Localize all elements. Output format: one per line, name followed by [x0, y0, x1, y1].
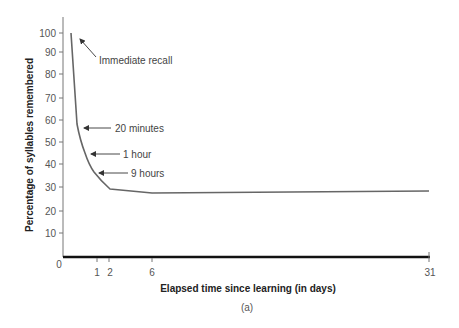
x-tick-label: 2: [107, 267, 113, 278]
annotation-20-minutes: 20 minutes: [115, 123, 164, 134]
x-tick-label: 6: [149, 267, 155, 278]
x-tick-label: 31: [424, 267, 436, 278]
y-tick-label: 30: [45, 182, 57, 193]
annotation-immediate-recall: Immediate recall: [99, 55, 172, 66]
y-tick-label: 20: [45, 206, 57, 217]
arrow-immediate-recall: [80, 39, 96, 57]
y-tick-label: 10: [45, 228, 57, 239]
origin-label: 0: [56, 259, 62, 270]
annotation-1-hour: 1 hour: [123, 149, 152, 160]
y-tick-label: 40: [45, 159, 57, 170]
x-axis-tick-labels: 0 1 2 6 31: [56, 259, 436, 278]
y-tick-label: 70: [45, 93, 57, 104]
forgetting-curve-chart: 100 90 80 70 60 50 40 30 20 10 0 1 2 6 3…: [0, 0, 459, 328]
y-tick-label: 50: [45, 137, 57, 148]
y-tick-label: 100: [39, 28, 56, 39]
y-axis-title: Percentage of syllables remembered: [24, 58, 35, 232]
y-axis-ticks: [59, 33, 63, 233]
y-axis-tick-labels: 100 90 80 70 60 50 40 30 20 10: [39, 28, 56, 239]
y-tick-label: 60: [45, 115, 57, 126]
x-axis-title: Elapsed time since learning (in days): [160, 283, 336, 294]
figure-caption: (a): [241, 302, 253, 313]
annotation-9-hours: 9 hours: [131, 168, 164, 179]
y-tick-label: 80: [45, 69, 57, 80]
x-tick-label: 1: [94, 267, 100, 278]
y-tick-label: 90: [45, 47, 57, 58]
